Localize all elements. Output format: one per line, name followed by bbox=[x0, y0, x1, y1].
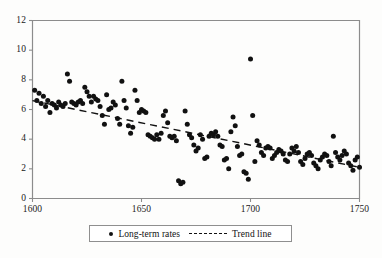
scatter-chart: 121086420 1600165017001750 Long-term rat… bbox=[0, 0, 382, 258]
data-point bbox=[102, 122, 107, 127]
data-point bbox=[196, 146, 201, 151]
data-point bbox=[154, 132, 159, 137]
data-point bbox=[174, 138, 179, 143]
data-point-group bbox=[32, 57, 362, 187]
dashed-line-sample-icon bbox=[189, 233, 227, 234]
data-point bbox=[189, 135, 194, 140]
data-point bbox=[124, 106, 129, 111]
legend-entry-scatter: Long-term rates bbox=[109, 229, 180, 239]
y-tick-label: 4 bbox=[4, 133, 26, 143]
y-tick-label: 10 bbox=[4, 44, 26, 54]
data-point bbox=[324, 153, 329, 158]
data-point bbox=[204, 154, 209, 159]
data-point bbox=[117, 122, 122, 127]
data-point bbox=[244, 171, 249, 176]
data-point bbox=[213, 129, 218, 134]
chart-legend: Long-term rates Trend line bbox=[89, 225, 292, 242]
data-point bbox=[220, 144, 225, 149]
data-point bbox=[172, 134, 177, 139]
data-point bbox=[300, 162, 305, 167]
data-point bbox=[344, 152, 349, 157]
data-point bbox=[183, 108, 188, 113]
data-point bbox=[246, 177, 251, 182]
data-point bbox=[159, 131, 164, 136]
y-tick-label: 6 bbox=[4, 104, 26, 114]
data-point bbox=[135, 98, 140, 103]
data-point bbox=[152, 137, 157, 142]
data-point bbox=[239, 152, 244, 157]
data-point bbox=[67, 79, 72, 84]
x-tick-label: 1650 bbox=[122, 204, 162, 214]
data-point bbox=[37, 91, 42, 96]
legend-entry-trend: Trend line bbox=[189, 229, 271, 239]
data-point bbox=[132, 88, 137, 93]
data-point bbox=[255, 138, 260, 143]
axis-lines bbox=[33, 20, 361, 199]
data-point bbox=[261, 153, 266, 158]
data-point bbox=[104, 92, 109, 97]
trend-line bbox=[33, 101, 360, 168]
data-point bbox=[333, 150, 338, 155]
data-point bbox=[41, 94, 46, 99]
data-point bbox=[65, 71, 70, 76]
data-point bbox=[143, 110, 148, 115]
data-point bbox=[316, 166, 321, 171]
y-tick-label: 0 bbox=[4, 193, 26, 203]
data-point bbox=[85, 89, 90, 94]
data-point bbox=[185, 122, 190, 127]
data-point bbox=[108, 106, 113, 111]
data-point bbox=[163, 108, 168, 113]
data-point bbox=[47, 110, 52, 115]
y-tick-label: 2 bbox=[4, 163, 26, 173]
data-point bbox=[224, 156, 229, 161]
data-point bbox=[80, 101, 85, 106]
data-point bbox=[292, 149, 297, 154]
x-tick-label: 1750 bbox=[340, 204, 380, 214]
data-point bbox=[248, 57, 253, 62]
data-point bbox=[122, 98, 127, 103]
x-tick-label: 1600 bbox=[13, 204, 53, 214]
data-point bbox=[337, 157, 342, 162]
tick-marks bbox=[29, 21, 360, 203]
data-point bbox=[329, 163, 334, 168]
data-point bbox=[95, 98, 100, 103]
data-point bbox=[156, 137, 161, 142]
data-point bbox=[191, 143, 196, 148]
data-point bbox=[235, 144, 240, 149]
data-point bbox=[119, 79, 124, 84]
data-point bbox=[331, 134, 336, 139]
data-point bbox=[350, 168, 355, 173]
data-point bbox=[355, 154, 360, 159]
data-point bbox=[161, 113, 166, 118]
data-point bbox=[252, 159, 257, 164]
x-tick-label: 1700 bbox=[231, 204, 271, 214]
data-point bbox=[215, 134, 220, 139]
data-point bbox=[32, 88, 37, 93]
y-tick-label: 12 bbox=[4, 15, 26, 25]
data-point bbox=[228, 129, 233, 134]
data-point bbox=[43, 104, 48, 109]
data-point bbox=[128, 131, 133, 136]
data-point bbox=[309, 153, 314, 158]
data-point bbox=[98, 104, 103, 109]
data-point bbox=[233, 123, 238, 128]
data-point bbox=[130, 125, 135, 130]
data-point bbox=[45, 98, 50, 103]
trend-line-group bbox=[33, 101, 360, 168]
data-point bbox=[63, 101, 68, 106]
filled-circle-marker-icon bbox=[109, 232, 113, 236]
data-point bbox=[113, 103, 118, 108]
data-point bbox=[250, 113, 255, 118]
data-point bbox=[89, 100, 94, 105]
legend-label-scatter: Long-term rates bbox=[118, 229, 180, 239]
data-point bbox=[294, 144, 299, 149]
data-point bbox=[340, 153, 345, 158]
data-point bbox=[87, 94, 92, 99]
data-point bbox=[82, 85, 87, 90]
y-tick-label: 8 bbox=[4, 74, 26, 84]
data-point bbox=[226, 166, 231, 171]
data-point bbox=[126, 123, 131, 128]
plot-canvas bbox=[0, 0, 382, 258]
data-point bbox=[180, 180, 185, 185]
data-point bbox=[285, 159, 290, 164]
